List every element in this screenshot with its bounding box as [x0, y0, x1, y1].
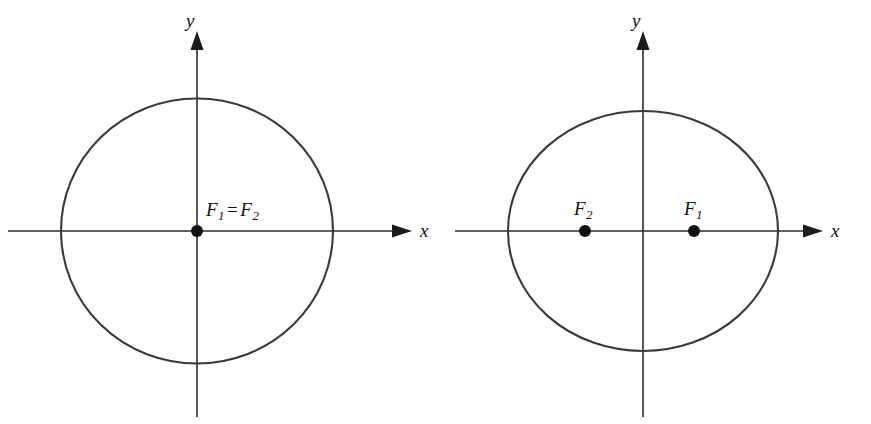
left-foci-label-f1-subscript: 1	[218, 208, 225, 223]
left-focus-dot-coincident	[191, 225, 203, 237]
right-x-axis-arrow-icon	[803, 225, 823, 238]
left-foci-label-f2-letter: F	[240, 199, 252, 220]
left-panel-group	[8, 31, 412, 417]
right-y-axis-label: y	[632, 11, 640, 30]
right-focus-label-f2: F2	[574, 199, 593, 222]
conic-sections-figure: y x F1=F2 y x F2 F1	[0, 0, 871, 424]
figure-canvas	[0, 0, 871, 424]
left-foci-label-equals: =	[225, 199, 241, 220]
left-y-axis-arrow-icon	[191, 31, 204, 50]
right-focus-dot-f2	[579, 225, 591, 237]
left-x-axis-arrow-icon	[392, 225, 412, 238]
right-panel-group	[455, 31, 823, 417]
right-y-axis-arrow-icon	[637, 31, 650, 50]
right-focus-label-f2-subscript: 2	[586, 207, 593, 222]
left-x-axis-label: x	[420, 221, 428, 240]
left-y-axis-label: y	[186, 11, 194, 30]
right-focus-label-f2-letter: F	[574, 198, 586, 219]
right-focus-label-f1-letter: F	[684, 198, 696, 219]
right-focus-label-f1-subscript: 1	[696, 207, 703, 222]
left-foci-label: F1=F2	[206, 200, 259, 223]
right-focus-dot-f1	[688, 225, 700, 237]
left-foci-label-f1-letter: F	[206, 199, 218, 220]
right-x-axis-label: x	[831, 221, 839, 240]
left-foci-label-f2-subscript: 2	[252, 208, 259, 223]
right-focus-label-f1: F1	[684, 199, 703, 222]
